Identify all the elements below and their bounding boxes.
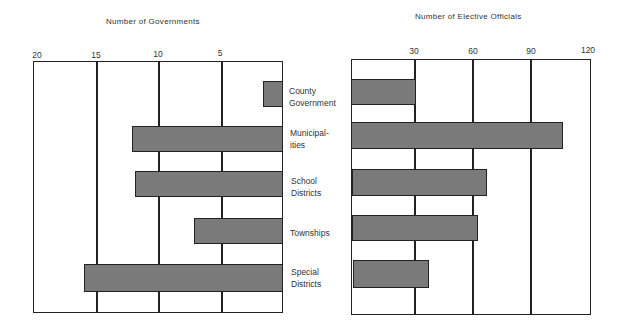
left-bar-special-districts: [84, 264, 283, 292]
right-tick-120: 120: [581, 45, 595, 55]
right-bar-municipalities: [351, 122, 563, 149]
right-bar-townships: [352, 215, 478, 241]
category-label-townships: Townships: [290, 227, 360, 239]
left-chart-title: Number of Governments: [106, 17, 200, 26]
category-label-special-districts: Special Districts: [291, 266, 361, 290]
right-chart-title: Number of Elective Officials: [415, 12, 522, 21]
left-tick-20: 20: [32, 50, 41, 60]
right-tick-30: 30: [409, 46, 418, 56]
right-bar-county-government: [351, 79, 416, 105]
category-label-county-government: County Government: [289, 85, 359, 109]
right-bar-special-districts: [353, 260, 429, 288]
left-bar-school-districts: [135, 171, 283, 197]
left-tick-10: 10: [153, 49, 162, 59]
right-tick-60: 60: [468, 46, 477, 56]
right-tick-90: 90: [526, 46, 535, 56]
left-bar-county-government: [263, 81, 283, 107]
category-label-school-districts: School Districts: [291, 175, 361, 199]
right-gridline-90: [530, 60, 532, 314]
left-tick-15: 15: [91, 50, 100, 60]
left-bar-townships: [194, 218, 283, 244]
left-bar-municipalities: [132, 126, 283, 152]
category-label-municipalities: Municipal- ities: [290, 127, 360, 151]
left-tick-5: 5: [218, 48, 223, 58]
right-bar-school-districts: [352, 169, 487, 196]
